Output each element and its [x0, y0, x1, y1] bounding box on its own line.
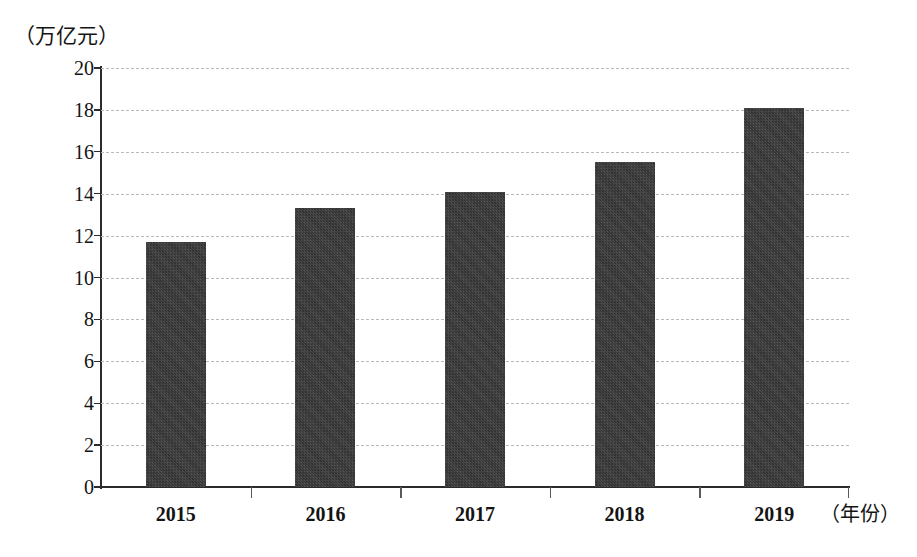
y-axis-tick-label-10: 10: [24, 268, 94, 288]
y-axis-tick-20: [94, 67, 101, 68]
x-axis-tick-4: [699, 487, 700, 498]
y-axis-tick-label-4: 4: [24, 393, 94, 413]
y-axis-tick-label-6: 6: [24, 351, 94, 371]
gridline-18: [101, 110, 849, 111]
bar-2018: [595, 162, 655, 487]
y-axis-tick-label-20: 20: [24, 58, 94, 78]
x-axis-tick-label-2019: 2019: [714, 501, 834, 527]
y-axis-tick-0: [94, 486, 101, 487]
y-axis-tick-16: [94, 151, 101, 152]
bar-2017: [445, 192, 505, 487]
y-axis-tick-2: [94, 444, 101, 445]
gridline-0: [101, 487, 849, 488]
bar-chart-figure: （万亿元） 20181614121086420 （年份） 20152016201…: [0, 0, 917, 557]
x-axis-tick-label-2015: 2015: [116, 501, 236, 527]
bar-2015: [146, 242, 206, 487]
y-axis-tick-8: [94, 319, 101, 320]
y-axis-tick-label-14: 14: [24, 184, 94, 204]
y-axis-tick-label-2: 2: [24, 435, 94, 455]
gridline-16: [101, 152, 849, 153]
x-axis-tick-3: [550, 487, 551, 498]
x-axis-tick-2: [400, 487, 401, 498]
y-axis-tick-12: [94, 235, 101, 236]
y-axis-tick-18: [94, 109, 101, 110]
x-axis-tick-1: [251, 487, 252, 498]
bar-2016: [295, 208, 355, 487]
x-axis-end-tick: [848, 487, 849, 498]
y-axis-tick-6: [94, 361, 101, 362]
y-axis-tick-label-8: 8: [24, 309, 94, 329]
y-axis-tick-10: [94, 277, 101, 278]
y-axis-tick-label-0: 0: [24, 477, 94, 497]
gridline-20: [101, 68, 849, 69]
y-axis-unit-label: （万亿元）: [14, 22, 119, 50]
y-axis-tick-label-12: 12: [24, 226, 94, 246]
y-axis-tick-14: [94, 193, 101, 194]
plot-area: [101, 68, 849, 487]
bar-2019: [744, 108, 804, 487]
y-axis-tick-label-18: 18: [24, 100, 94, 120]
y-axis-tick-labels: 20181614121086420: [16, 68, 94, 487]
y-axis-tick-4: [94, 403, 101, 404]
y-axis-tick-label-16: 16: [24, 142, 94, 162]
x-axis-tick-label-2018: 2018: [565, 501, 685, 527]
x-axis-tick-label-2017: 2017: [415, 501, 535, 527]
x-axis-tick-label-2016: 2016: [265, 501, 385, 527]
